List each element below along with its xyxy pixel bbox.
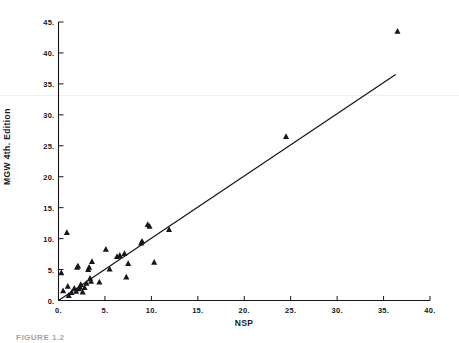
data-point-marker: [107, 266, 113, 272]
data-point-marker: [96, 279, 102, 285]
data-point-marker: [121, 250, 127, 256]
x-tick-label: 35.: [378, 306, 389, 315]
y-tick-label: 25.: [29, 141, 55, 150]
x-axis-title: NSP: [235, 318, 254, 328]
figure-panel: 0.5.10.15.20.25.30.35.40.0.5.10.15.20.25…: [0, 0, 459, 343]
data-point-marker: [123, 274, 129, 280]
y-tick-label: 45.: [29, 18, 55, 27]
y-tick-label: 40.: [29, 48, 55, 57]
data-point-marker: [151, 259, 157, 265]
data-point-marker: [86, 264, 92, 270]
data-point-marker: [89, 258, 95, 264]
y-tick-label: 35.: [29, 79, 55, 88]
y-tick-label: 0.: [29, 296, 55, 305]
data-point-marker: [58, 269, 64, 275]
data-point-marker: [103, 246, 109, 252]
x-tick-label: 30.: [331, 306, 342, 315]
fit-line: [59, 75, 396, 301]
y-axis-ticks: [59, 22, 64, 301]
data-point-marker: [166, 226, 172, 232]
data-point-marker: [139, 238, 145, 244]
data-point-marker: [283, 133, 289, 139]
y-tick-label: 10.: [29, 234, 55, 243]
y-tick-label: 15.: [29, 203, 55, 212]
figure-caption: FIGURE 1.2: [16, 333, 65, 342]
x-tick-label: 15.: [192, 306, 203, 315]
data-points: [58, 28, 400, 298]
scatter-plot: [0, 0, 459, 343]
y-tick-label: 20.: [29, 172, 55, 181]
x-axis-ticks: [59, 296, 431, 301]
x-tick-label: 5.: [102, 306, 109, 315]
x-tick-label: 10.: [146, 306, 157, 315]
x-tick-label: 0.: [55, 306, 62, 315]
regression-line: [59, 75, 396, 301]
plot-axes: [58, 22, 430, 301]
x-tick-label: 20.: [239, 306, 250, 315]
y-axis-title: MGW 4th. Edition: [2, 108, 12, 185]
y-tick-label: 30.: [29, 110, 55, 119]
data-point-marker: [65, 283, 71, 289]
y-tick-label: 5.: [29, 265, 55, 274]
data-point-marker: [64, 229, 70, 235]
x-tick-label: 40.: [424, 306, 435, 315]
data-point-marker: [125, 260, 131, 266]
data-point-marker: [394, 28, 400, 34]
data-point-marker: [75, 263, 81, 269]
x-tick-label: 25.: [285, 306, 296, 315]
